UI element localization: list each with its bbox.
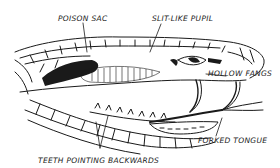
leader-teeth-1 (100, 116, 108, 148)
label-poison-sac: POISON SAC (58, 15, 107, 23)
slit-pupil (188, 57, 200, 63)
snake-head-diagram: POISON SAC SLIT-LIKE PUPIL HOLLOW FANGS … (0, 0, 280, 168)
leader-slit-pupil (150, 24, 161, 52)
label-teeth: TEETH POINTING BACKWARDS (38, 157, 159, 165)
label-hollow-fangs: HOLLOW FANGS (208, 70, 272, 78)
forked-tongue (150, 110, 222, 122)
label-forked-tongue: FORKED TONGUE (198, 137, 267, 145)
lower-jaw-outline (30, 100, 210, 139)
fang-front (190, 80, 198, 112)
leader-forked-tongue (216, 118, 222, 136)
label-slit-pupil: SLIT-LIKE PUPIL (152, 15, 213, 23)
